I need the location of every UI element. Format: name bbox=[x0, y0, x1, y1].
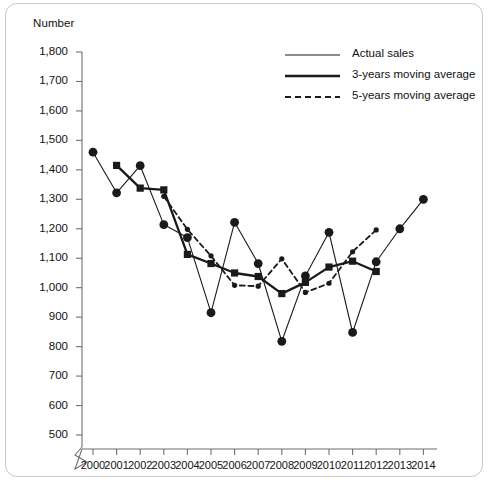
y-tick-label: 500 bbox=[22, 428, 68, 440]
data-point-marker bbox=[349, 258, 356, 265]
legend bbox=[285, 55, 340, 97]
series-line bbox=[93, 152, 423, 341]
legend-label: 5-years moving average bbox=[352, 89, 475, 101]
data-point-marker bbox=[184, 251, 191, 258]
data-point-marker bbox=[160, 186, 167, 193]
y-tick-label: 1,500 bbox=[22, 133, 68, 145]
data-point-marker bbox=[374, 227, 379, 232]
data-point-marker bbox=[112, 188, 121, 197]
data-point-marker bbox=[279, 256, 284, 261]
data-point-marker bbox=[185, 227, 190, 232]
line-chart: Number 5006007008009001,0001,1001,2001,3… bbox=[0, 0, 491, 485]
data-point-marker bbox=[395, 224, 404, 233]
y-tick-label: 1,100 bbox=[22, 251, 68, 263]
y-tick-label: 1,200 bbox=[22, 222, 68, 234]
data-point-marker bbox=[303, 290, 308, 295]
y-tick-label: 1,600 bbox=[22, 104, 68, 116]
data-point-marker bbox=[256, 284, 261, 289]
data-point-marker bbox=[302, 279, 309, 286]
data-point-marker bbox=[254, 259, 263, 268]
data-point-marker bbox=[230, 218, 239, 227]
legend-label: 3-years moving average bbox=[352, 68, 475, 80]
data-point-marker bbox=[419, 195, 428, 204]
data-point-marker bbox=[350, 249, 355, 254]
data-point-marker bbox=[207, 260, 214, 267]
data-point-marker bbox=[161, 194, 166, 199]
data-point-marker bbox=[325, 263, 332, 270]
data-point-marker bbox=[137, 185, 144, 192]
data-point-marker bbox=[159, 220, 168, 229]
y-tick-label: 700 bbox=[22, 369, 68, 381]
data-point-marker bbox=[326, 281, 331, 286]
data-point-marker bbox=[277, 337, 286, 346]
series-3 bbox=[161, 194, 379, 295]
data-point-marker bbox=[325, 228, 334, 237]
y-tick-label: 1,800 bbox=[22, 45, 68, 57]
x-tick-label: 2014 bbox=[406, 459, 440, 471]
y-tick-label: 1,700 bbox=[22, 74, 68, 86]
data-point-marker bbox=[136, 161, 145, 170]
data-point-marker bbox=[372, 257, 381, 266]
data-point-marker bbox=[183, 233, 192, 242]
data-point-marker bbox=[207, 308, 216, 317]
data-point-marker bbox=[348, 328, 357, 337]
legend-label: Actual sales bbox=[352, 47, 414, 59]
data-point-marker bbox=[89, 148, 98, 157]
data-point-marker bbox=[255, 273, 262, 280]
y-tick-label: 800 bbox=[22, 340, 68, 352]
y-tick-label: 1,000 bbox=[22, 281, 68, 293]
data-point-marker bbox=[278, 290, 285, 297]
series-line bbox=[117, 165, 377, 293]
data-point-marker bbox=[373, 268, 380, 275]
y-tick-label: 1,400 bbox=[22, 163, 68, 175]
y-tick-label: 1,300 bbox=[22, 192, 68, 204]
y-tick-label: 900 bbox=[22, 310, 68, 322]
data-point-marker bbox=[232, 283, 237, 288]
data-point-marker bbox=[113, 162, 120, 169]
series-line bbox=[164, 196, 376, 292]
y-axis-title: Number bbox=[33, 17, 75, 29]
data-point-marker bbox=[208, 253, 213, 258]
series-1 bbox=[89, 148, 428, 346]
data-point-marker bbox=[231, 269, 238, 276]
y-tick-label: 600 bbox=[22, 399, 68, 411]
